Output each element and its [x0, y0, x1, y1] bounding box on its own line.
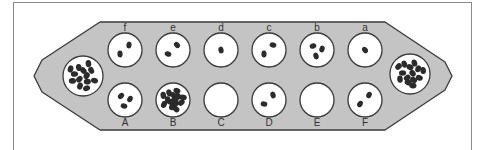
pit-circle — [300, 33, 334, 67]
pit-circle — [108, 83, 142, 117]
pit-f[interactable] — [108, 33, 142, 67]
pit-label-F: F — [362, 117, 368, 128]
seed-icon — [399, 70, 406, 76]
pit-circle — [204, 83, 238, 117]
pit-C[interactable] — [204, 83, 238, 117]
pit-label-f: f — [124, 22, 127, 33]
pit-a[interactable] — [348, 33, 382, 67]
pit-circle — [252, 83, 286, 117]
pit-E[interactable] — [300, 83, 334, 117]
pit-label-B: B — [170, 117, 177, 128]
pit-label-e: e — [170, 22, 176, 33]
pit-label-c: c — [267, 22, 272, 33]
pit-circle — [348, 83, 382, 117]
right-store[interactable] — [390, 54, 430, 94]
pit-circle — [156, 33, 190, 67]
pit-label-a: a — [362, 22, 368, 33]
pit-D[interactable] — [252, 83, 286, 117]
left-store[interactable] — [63, 56, 103, 96]
pit-label-b: b — [314, 22, 320, 33]
pit-circle — [108, 33, 142, 67]
pit-F[interactable] — [348, 83, 382, 117]
pit-label-E: E — [314, 117, 321, 128]
pit-A[interactable] — [108, 83, 142, 117]
pit-label-D: D — [265, 117, 272, 128]
pit-e[interactable] — [156, 33, 190, 67]
pit-b[interactable] — [300, 33, 334, 67]
pit-label-A: A — [122, 117, 129, 128]
pit-label-C: C — [217, 117, 224, 128]
pit-d[interactable] — [204, 33, 238, 67]
pit-label-d: d — [218, 22, 224, 33]
pit-B[interactable] — [156, 83, 190, 117]
mancala-board: f e d c b a A B C D E F — [0, 0, 481, 150]
pit-circle — [300, 83, 334, 117]
pit-circle — [63, 56, 103, 96]
pit-circle — [252, 33, 286, 67]
pit-c[interactable] — [252, 33, 286, 67]
